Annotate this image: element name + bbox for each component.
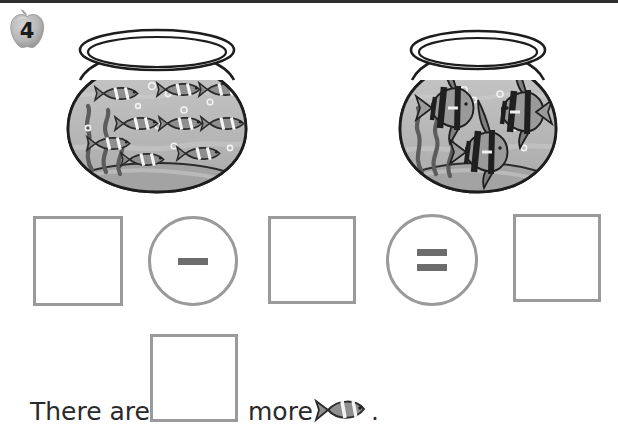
equals-icon [417, 249, 447, 271]
sentence-prefix: There are [30, 395, 150, 429]
minus-icon [178, 258, 208, 265]
fishbowl-icon [58, 22, 256, 197]
subtrahend-answer-box[interactable] [268, 216, 356, 304]
fishbowl-icon [392, 22, 564, 197]
minuend-answer-box[interactable] [33, 216, 123, 306]
sentence-suffix: . [371, 395, 379, 429]
exercise-number-badge: 4 [4, 8, 50, 54]
page-top-rule [0, 0, 618, 3]
sentence-middle: more [248, 395, 313, 429]
minus-operator-circle [148, 216, 238, 306]
clownfish-icon [314, 393, 368, 427]
exercise-number-label: 4 [4, 19, 50, 43]
equals-operator-circle [386, 214, 478, 306]
left-fishbowl [58, 22, 256, 197]
sentence-row: There are more . [0, 395, 618, 429]
right-fishbowl [392, 22, 564, 197]
difference-answer-box[interactable] [513, 214, 601, 302]
